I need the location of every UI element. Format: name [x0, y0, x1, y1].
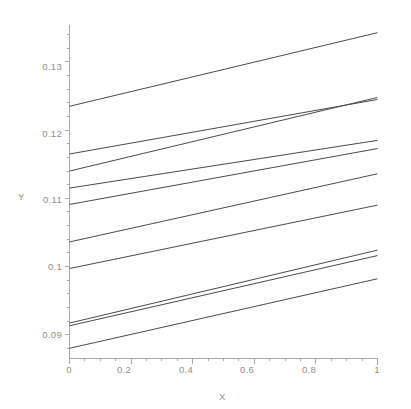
x-tick-label-3: 0.6 [235, 365, 259, 375]
y-tick-label-2: 0.11 [22, 195, 62, 205]
y-axis-title: Y [18, 192, 24, 202]
chart-figure: 0.09 0.1 0.11 0.12 0.13 0 0.2 0.4 0.6 0.… [0, 0, 411, 409]
y-tick-label-1: 0.1 [22, 262, 62, 272]
y-tick-label-3: 0.12 [22, 129, 62, 139]
x-tick-label-5: 1 [368, 365, 386, 375]
y-tick-label-0: 0.09 [22, 330, 62, 340]
data-lines [70, 33, 378, 349]
x-tick-label-2: 0.4 [174, 365, 198, 375]
x-tick-label-4: 0.8 [297, 365, 321, 375]
x-axis-title: X [219, 392, 225, 402]
x-tick-label-0: 0 [59, 365, 79, 375]
y-tick-label-4: 0.13 [22, 62, 62, 72]
x-tick-label-1: 0.2 [112, 365, 136, 375]
